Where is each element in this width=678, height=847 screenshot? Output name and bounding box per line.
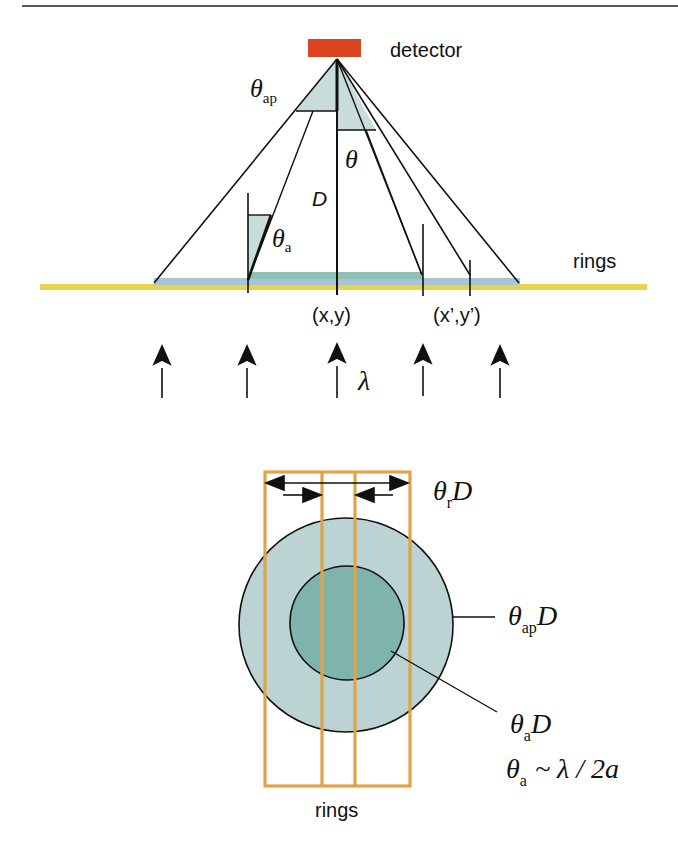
- theta-label: θ: [345, 145, 358, 174]
- d-label: D: [312, 187, 327, 210]
- theta-ap-d-label: θapD: [508, 600, 557, 637]
- arrow-2-head: [239, 346, 255, 364]
- rings-label-top: rings: [573, 250, 616, 272]
- point-label: (x,y): [312, 304, 351, 326]
- cone-right-line: [337, 59, 519, 283]
- theta-a-label: θa: [272, 224, 292, 255]
- arrow-1-head: [154, 346, 170, 364]
- top-diagram: detector θap θ D θa rings (x,y) (x’,y’) …: [40, 39, 647, 398]
- inner-arrow-left-head: [303, 488, 321, 502]
- diagram-canvas: detector θap θ D θa rings (x,y) (x’,y’) …: [0, 0, 678, 847]
- detector-block: [308, 39, 361, 57]
- cone-left-line: [154, 59, 337, 283]
- theta-r-arrows: [266, 476, 408, 502]
- point-prime-label: (x’,y’): [433, 304, 481, 326]
- bottom-diagram: θrD θapD θaD θa~ λ / 2a rings: [239, 472, 619, 821]
- diffraction-formula: θa~ λ / 2a: [506, 753, 619, 789]
- rings-label-bottom: rings: [315, 799, 358, 821]
- inner-arrow-right-head: [356, 488, 374, 502]
- arrow-4-head: [415, 345, 431, 363]
- span-right-head: [390, 476, 408, 490]
- theta-ap-label: θap: [250, 74, 277, 106]
- theta-r-d-label: θrD: [433, 475, 472, 511]
- arrow-3-head: [329, 344, 345, 362]
- theta-a-d-label: θaD: [510, 708, 551, 744]
- detector-label: detector: [390, 39, 463, 61]
- incident-arrows: [154, 344, 508, 398]
- arrow-5-head: [492, 346, 508, 364]
- span-left-head: [266, 476, 284, 490]
- inner-circle: [290, 566, 404, 680]
- lambda-label: λ: [357, 365, 370, 396]
